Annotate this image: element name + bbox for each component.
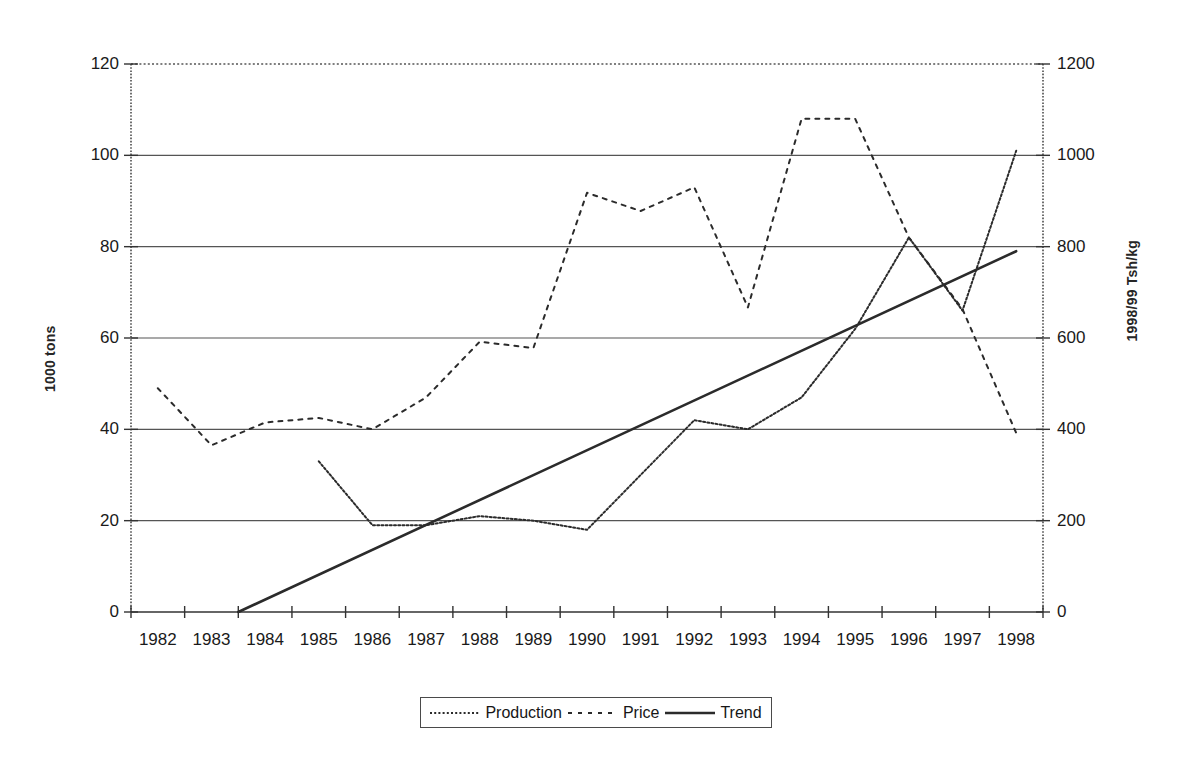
data-series — [158, 119, 1016, 612]
legend-label-production: Production — [485, 704, 562, 722]
legend-item-production[interactable]: Production — [430, 704, 562, 722]
axis-lines — [124, 64, 1050, 618]
legend-item-trend[interactable]: Trend — [665, 704, 761, 722]
legend-swatch-trend — [665, 708, 715, 718]
legend-swatch-production — [430, 708, 480, 718]
series-line-price — [158, 119, 1016, 446]
chart-legend: Production Price Trend — [420, 697, 772, 728]
legend-label-trend: Trend — [720, 704, 761, 722]
legend-swatch-price — [568, 708, 618, 718]
legend-item-price[interactable]: Price — [568, 704, 659, 722]
legend-label-price: Price — [623, 704, 659, 722]
chart-container: 1000 tons 1998/99 Tsh/kg 020406080100120… — [0, 0, 1187, 759]
gridlines — [131, 64, 1043, 521]
plot-area — [0, 0, 1187, 759]
series-line-trend — [238, 251, 1016, 612]
series-line-production — [319, 151, 1016, 530]
